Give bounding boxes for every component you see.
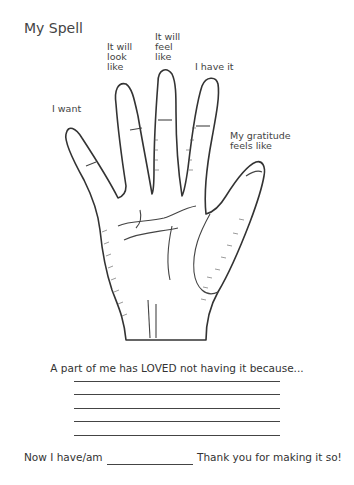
label-i-have-it: I have it [195,62,234,72]
answer-line-1[interactable] [74,381,280,382]
label-it-will-feel-like: It will feel like [155,32,180,62]
label-line: like [155,52,180,62]
label-line: feels like [230,141,291,151]
label-my-gratitude-feels-like: My gratitude feels like [230,131,291,151]
answer-line-5[interactable] [74,435,280,436]
footer-now-i-have: Now I have/am [24,451,103,463]
label-it-will-look-like: It will look like [107,42,132,72]
answer-line-2[interactable] [74,394,280,395]
footer-blank-line[interactable] [107,464,193,465]
footer-thank-you: Thank you for making it so! [197,451,342,463]
label-i-want: I want [52,104,81,114]
answer-line-4[interactable] [74,421,280,422]
label-line: like [107,62,132,72]
answer-line-3[interactable] [74,408,280,409]
prompt-text: A part of me has LOVED not having it bec… [0,362,354,374]
